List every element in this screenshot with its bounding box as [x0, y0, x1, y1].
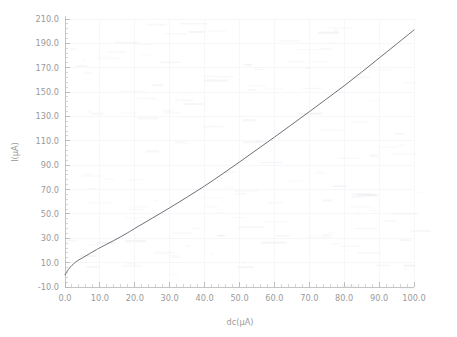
y-tick-label: 90.0	[41, 160, 59, 170]
y-tick-label: -10.0	[38, 282, 59, 292]
y-axis-title: I(µA)	[10, 142, 20, 162]
x-tick-label: 0.0	[58, 293, 71, 303]
x-tick-label: 50.0	[230, 293, 248, 303]
x-tick-label: 20.0	[126, 293, 144, 303]
y-tick-label: 170.0	[36, 63, 59, 73]
x-tick-label: 80.0	[335, 293, 353, 303]
chart-container: -10.010.030.050.070.090.0110.0130.0150.0…	[0, 0, 457, 337]
x-tick-label: 30.0	[161, 293, 179, 303]
x-tick-label: 90.0	[370, 293, 388, 303]
line-chart: -10.010.030.050.070.090.0110.0130.0150.0…	[0, 0, 457, 337]
y-tick-label: 190.0	[36, 38, 59, 48]
x-tick-label: 70.0	[300, 293, 318, 303]
x-tick-label: 100.0	[402, 293, 425, 303]
y-tick-label: 50.0	[41, 209, 59, 219]
y-tick-label: 70.0	[41, 185, 59, 195]
y-tick-label: 150.0	[36, 87, 59, 97]
x-axis-title: dc(µA)	[227, 317, 254, 327]
y-tick-label: 110.0	[36, 136, 59, 146]
y-tick-label: 210.0	[36, 14, 59, 24]
x-tick-label: 10.0	[91, 293, 109, 303]
x-tick-label: 40.0	[195, 293, 213, 303]
y-tick-label: 130.0	[36, 111, 59, 121]
y-tick-label: 10.0	[41, 258, 59, 268]
y-tick-label: 30.0	[41, 233, 59, 243]
x-tick-label: 60.0	[265, 293, 283, 303]
